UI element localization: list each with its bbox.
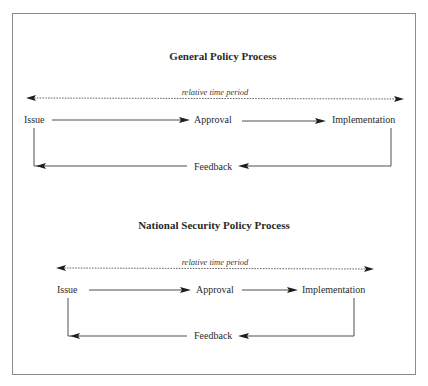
- national-time-right-arrowhead-icon: [364, 266, 374, 272]
- national-feedback-to-issue-arrow: [68, 298, 187, 336]
- general-time-period-label: relative time period: [182, 87, 249, 97]
- national-implementation-to-feedback-arrow: [246, 298, 354, 336]
- general-node-issue: Issue: [24, 114, 45, 125]
- general-node-feedback: Feedback: [194, 161, 232, 172]
- general-time-period-line: [34, 98, 400, 99]
- general-implementation-to-feedback-arrow: [246, 128, 391, 166]
- general-policy-process: General Policy Process relative time per…: [24, 50, 404, 172]
- general-policy-title: General Policy Process: [169, 50, 277, 62]
- national-security-policy-process: National Security Policy Process relativ…: [56, 219, 374, 341]
- general-feedback-to-issue-arrow: [34, 128, 187, 166]
- general-node-implementation: Implementation: [332, 114, 395, 125]
- national-node-approval: Approval: [196, 284, 234, 295]
- national-time-period-label: relative time period: [182, 257, 249, 267]
- national-node-feedback: Feedback: [194, 330, 232, 341]
- national-node-issue: Issue: [57, 284, 78, 295]
- national-security-policy-title: National Security Policy Process: [138, 219, 290, 231]
- general-node-approval: Approval: [194, 114, 232, 125]
- national-time-period-line: [64, 268, 366, 269]
- policy-process-diagram: General Policy Process relative time per…: [0, 0, 428, 386]
- national-node-implementation: Implementation: [302, 284, 365, 295]
